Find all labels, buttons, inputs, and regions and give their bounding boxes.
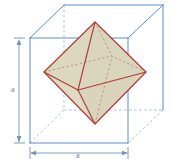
dimension-height-arrow-bottom	[17, 136, 22, 142]
octahedron-faces	[44, 22, 146, 124]
dimension-label-height: a	[11, 86, 15, 94]
cube-edge-depth-top-left	[30, 5, 64, 38]
dimension-height	[14, 38, 25, 143]
cube-hidden-edge-depth-bottom-right	[128, 110, 163, 143]
dimension-width-arrow-left	[30, 151, 36, 156]
geometry-diagram	[0, 0, 172, 164]
dimension-width-arrow-right	[122, 151, 128, 156]
cube-edge-depth-top-right	[128, 5, 163, 38]
octahedron-in-cube-figure: a a	[0, 0, 172, 164]
cube-hidden-edge-depth-bottom-left	[30, 110, 64, 143]
dimension-label-width: a	[76, 152, 80, 160]
dimension-height-arrow-top	[17, 39, 22, 45]
octahedron-back-wash	[44, 22, 146, 124]
